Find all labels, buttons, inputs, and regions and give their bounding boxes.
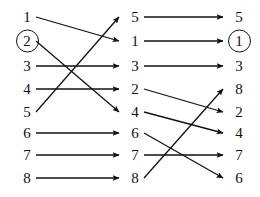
node-label: 6: [131, 126, 139, 141]
node-label: 4: [131, 105, 139, 120]
node-label: 1: [228, 30, 251, 53]
node-label: 8: [131, 171, 139, 186]
node-label: 7: [131, 148, 139, 163]
node-label: 1: [131, 34, 139, 49]
node-right-7: 7: [222, 148, 256, 163]
node-left-2: 2: [10, 30, 44, 53]
node-label: 2: [235, 105, 243, 120]
permutation-diagram: 12345678 51324678 51382476: [0, 0, 260, 197]
node-left-1: 1: [10, 10, 44, 25]
edge-right-4-to-5: [144, 89, 223, 112]
edge-left-1-to-2: [36, 17, 119, 41]
node-label: 3: [131, 59, 139, 74]
node-right-8: 6: [222, 171, 256, 186]
node-left-4: 4: [10, 82, 44, 97]
node-label: 7: [23, 148, 31, 163]
node-middle-1: 5: [118, 10, 152, 25]
node-label: 6: [23, 126, 31, 141]
node-label: 5: [235, 10, 243, 25]
node-middle-3: 3: [118, 59, 152, 74]
node-left-7: 7: [10, 148, 44, 163]
node-right-1: 5: [222, 10, 256, 25]
node-label: 8: [235, 82, 243, 97]
node-middle-6: 6: [118, 126, 152, 141]
node-label: 4: [23, 82, 31, 97]
node-label: 1: [23, 10, 31, 25]
column-middle: 51324678: [118, 0, 152, 197]
node-right-2: 1: [222, 30, 256, 53]
node-middle-7: 7: [118, 148, 152, 163]
node-middle-2: 1: [118, 34, 152, 49]
column-left: 12345678: [10, 0, 44, 197]
node-label: 5: [23, 105, 31, 120]
node-right-6: 4: [222, 126, 256, 141]
node-right-4: 8: [222, 82, 256, 97]
node-left-6: 6: [10, 126, 44, 141]
node-left-5: 5: [10, 105, 44, 120]
node-right-5: 2: [222, 105, 256, 120]
node-left-3: 3: [10, 59, 44, 74]
node-label: 2: [131, 82, 139, 97]
node-middle-5: 4: [118, 105, 152, 120]
node-label: 4: [235, 126, 243, 141]
node-middle-4: 2: [118, 82, 152, 97]
node-label: 5: [131, 10, 139, 25]
node-label: 3: [235, 59, 243, 74]
edge-right-5-to-6: [144, 112, 223, 133]
node-label: 6: [235, 171, 243, 186]
edge-left-5-to-1: [36, 17, 119, 112]
node-middle-8: 8: [118, 171, 152, 186]
edge-left-2-to-5: [36, 41, 119, 112]
node-label: 3: [23, 59, 31, 74]
node-right-3: 3: [222, 59, 256, 74]
node-left-8: 8: [10, 171, 44, 186]
edge-right-8-to-4: [144, 89, 223, 178]
node-label: 8: [23, 171, 31, 186]
node-label: 7: [235, 148, 243, 163]
column-right: 51382476: [222, 0, 256, 197]
node-label: 2: [16, 30, 39, 53]
